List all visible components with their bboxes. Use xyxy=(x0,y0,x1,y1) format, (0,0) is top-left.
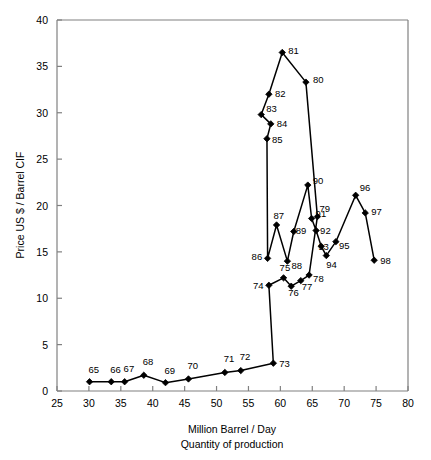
data-point-label: 91 xyxy=(316,208,327,219)
y-tick-label: 25 xyxy=(36,153,48,165)
data-point-label: 87 xyxy=(274,210,285,221)
data-point-label: 71 xyxy=(224,353,235,364)
data-point-label: 85 xyxy=(272,134,283,145)
data-point-label: 83 xyxy=(266,103,277,114)
x-tick-label: 25 xyxy=(51,397,63,409)
data-point-label: 77 xyxy=(302,281,313,292)
data-point-label: 78 xyxy=(313,273,324,284)
x-tick-label: 35 xyxy=(115,397,127,409)
data-point-label: 65 xyxy=(89,364,100,375)
data-point-label: 70 xyxy=(188,360,199,371)
data-point-marker xyxy=(86,379,92,385)
y-tick-label: 15 xyxy=(36,246,48,258)
data-point-label: 97 xyxy=(371,206,382,217)
y-tick-label: 30 xyxy=(36,107,48,119)
x-tick-label: 70 xyxy=(338,397,350,409)
y-axis-title: Price US $ / Barrel CIF xyxy=(14,152,26,259)
data-point-label: 67 xyxy=(124,363,135,374)
x-tick-label: 80 xyxy=(402,397,414,409)
data-point-marker xyxy=(371,257,377,263)
data-point-label: 84 xyxy=(277,118,288,129)
y-tick-label: 40 xyxy=(36,14,48,26)
data-point-label: 88 xyxy=(291,260,302,271)
data-point-label: 95 xyxy=(339,240,350,251)
y-tick-label: 0 xyxy=(42,385,48,397)
data-point-marker xyxy=(362,210,368,216)
chart-container: 253035404550556065707580 051015202530354… xyxy=(0,0,431,460)
data-point-label: 86 xyxy=(252,251,263,262)
data-point-marker xyxy=(352,192,358,198)
y-axis-tick-labels: 0510152025303540 xyxy=(36,14,48,397)
x-tick-label: 40 xyxy=(147,397,159,409)
y-tick-label: 5 xyxy=(42,339,48,351)
data-point-label: 90 xyxy=(313,175,324,186)
x-tick-label: 55 xyxy=(243,397,255,409)
data-point-marker xyxy=(266,282,272,288)
data-point-marker xyxy=(141,372,147,378)
data-point-label: 82 xyxy=(275,88,286,99)
series-polyline xyxy=(90,52,375,382)
data-point-label: 96 xyxy=(360,182,371,193)
y-tick-label: 35 xyxy=(36,60,48,72)
x-axis-title: Million Barrel / Day xyxy=(188,423,277,435)
data-point-label: 80 xyxy=(313,74,324,85)
data-point-label: 76 xyxy=(288,287,299,298)
data-point-label: 72 xyxy=(240,351,251,362)
data-point-marker xyxy=(238,367,244,373)
data-point-marker xyxy=(162,379,168,385)
data-point-label: 94 xyxy=(326,259,337,270)
x-axis-tick-labels: 253035404550556065707580 xyxy=(51,397,414,409)
data-point-marker xyxy=(305,182,311,188)
data-point-marker xyxy=(273,222,279,228)
x-axis-subtitle: Quantity of production xyxy=(181,438,284,450)
data-point-marker xyxy=(264,255,270,261)
axes xyxy=(57,20,408,391)
data-point-label: 98 xyxy=(380,255,391,266)
data-point-label: 75 xyxy=(280,262,291,273)
x-tick-label: 65 xyxy=(306,397,318,409)
data-point-label: 68 xyxy=(143,356,154,367)
data-point-label: 69 xyxy=(165,365,176,376)
data-point-label: 92 xyxy=(320,225,331,236)
data-point-markers xyxy=(86,49,377,386)
data-point-marker xyxy=(308,215,314,221)
price-vs-production-scatter-line-chart: 253035404550556065707580 051015202530354… xyxy=(0,0,431,460)
data-point-label: 81 xyxy=(288,45,299,56)
data-point-marker xyxy=(270,360,276,366)
axis-ticks xyxy=(57,20,408,391)
x-tick-label: 45 xyxy=(179,397,191,409)
data-point-marker xyxy=(266,91,272,97)
data-point-labels: 6566676869707172737475767778798081828384… xyxy=(89,45,391,376)
x-tick-label: 30 xyxy=(83,397,95,409)
data-point-marker xyxy=(121,379,127,385)
y-tick-label: 10 xyxy=(36,292,48,304)
x-tick-label: 50 xyxy=(211,397,223,409)
data-point-marker xyxy=(222,369,228,375)
data-point-marker xyxy=(108,379,114,385)
data-point-marker xyxy=(185,376,191,382)
data-series-line xyxy=(90,52,375,382)
data-point-label: 73 xyxy=(279,358,290,369)
y-tick-label: 20 xyxy=(36,200,48,212)
data-point-label: 74 xyxy=(253,280,264,291)
data-point-label: 93 xyxy=(318,241,329,252)
data-point-marker xyxy=(313,227,319,233)
x-tick-label: 75 xyxy=(370,397,382,409)
data-point-marker xyxy=(264,136,270,142)
data-point-label: 89 xyxy=(296,225,307,236)
data-point-label: 66 xyxy=(110,364,121,375)
x-tick-label: 60 xyxy=(275,397,287,409)
